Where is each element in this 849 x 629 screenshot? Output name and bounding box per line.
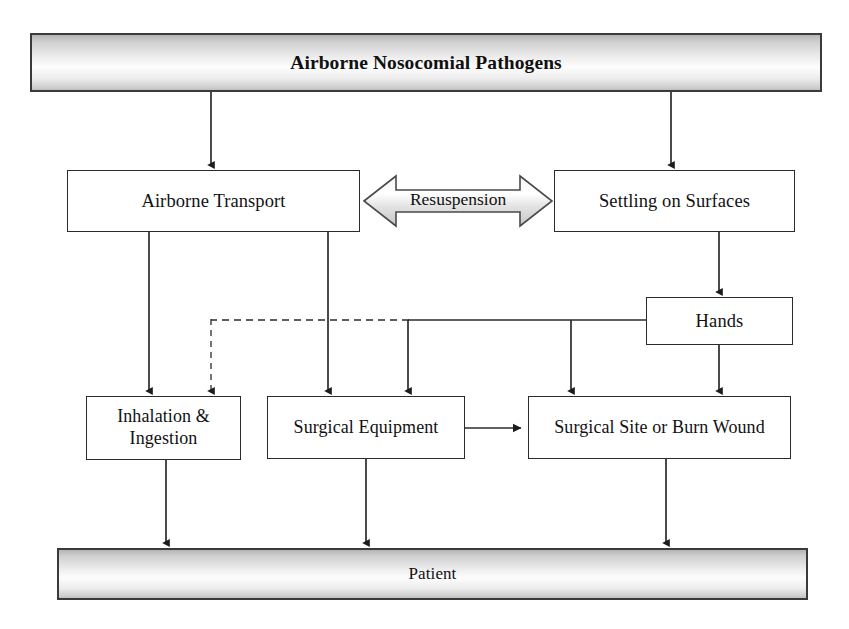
node-surgical-equipment[interactable]: Surgical Equipment: [267, 396, 465, 459]
node-settling-on-surfaces[interactable]: Settling on Surfaces: [554, 170, 795, 232]
node-label: Surgical Site or Burn Wound: [554, 417, 765, 439]
node-label: Inhalation & Ingestion: [117, 406, 210, 450]
node-hands[interactable]: Hands: [646, 297, 793, 345]
node-label: Patient: [409, 564, 457, 585]
flowchart-canvas: Resuspension Airborne Nosocomial Pathoge…: [0, 0, 849, 629]
resuspension-label: Resuspension: [378, 189, 538, 210]
node-label: Airborne Transport: [141, 190, 285, 213]
node-patient[interactable]: Patient: [57, 548, 808, 600]
node-label: Hands: [696, 310, 744, 333]
node-airborne-transport[interactable]: Airborne Transport: [67, 170, 360, 232]
node-inhalation-and-ingestion[interactable]: Inhalation & Ingestion: [86, 396, 241, 460]
node-label: Settling on Surfaces: [599, 190, 750, 213]
node-label: Airborne Nosocomial Pathogens: [290, 51, 562, 75]
node-airborne-nosocomial-pathogens[interactable]: Airborne Nosocomial Pathogens: [30, 33, 822, 92]
node-label: Surgical Equipment: [294, 417, 439, 439]
node-surgical-site-or-burn-wound[interactable]: Surgical Site or Burn Wound: [528, 396, 791, 459]
